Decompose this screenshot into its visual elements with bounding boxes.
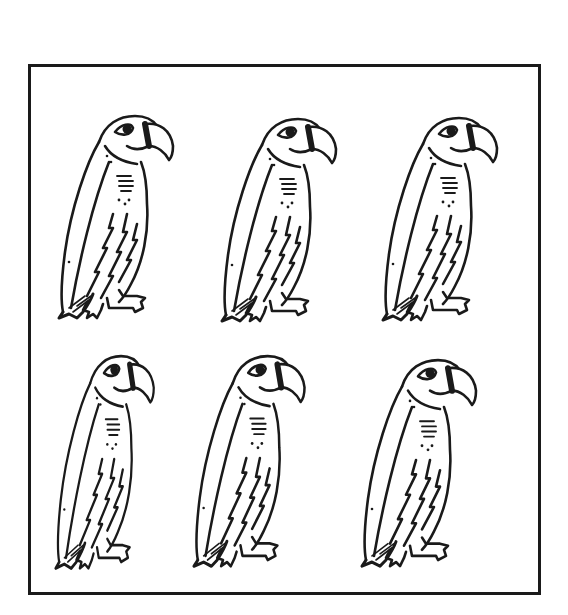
parrot-illustration: parrot 6 (360, 356, 476, 564)
parrot-icon (192, 352, 305, 568)
parrot-icon (54, 352, 154, 570)
parrot-icon (220, 115, 336, 323)
parrot-icon (381, 114, 497, 322)
parrot-illustration: parrot 5 (192, 352, 308, 560)
parrot-illustration: parrot 4 (54, 352, 170, 560)
parrot-illustration: parrot 3 (381, 114, 497, 322)
parrot-icon (57, 112, 173, 320)
parrot-icon (360, 356, 476, 568)
parrot-illustration: parrot 1 (57, 112, 173, 320)
parrot-illustration: parrot 2 (220, 115, 336, 323)
